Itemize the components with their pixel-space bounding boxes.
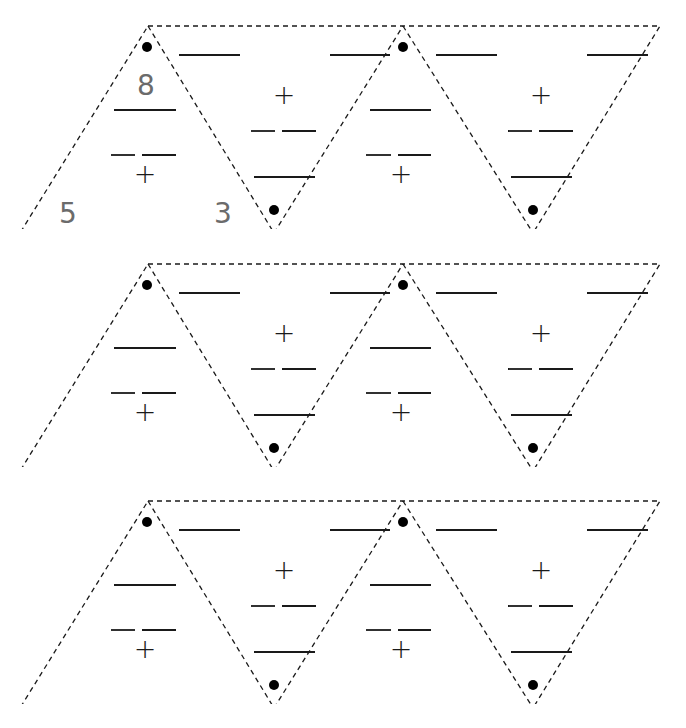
- triangle-row-3: + + + +: [0, 489, 686, 704]
- plus-operator-r2t2: +: [273, 319, 296, 346]
- worksheet-canvas: + + + + 8 5 3: [0, 0, 686, 728]
- plus-operator-r3t4: +: [530, 556, 553, 583]
- plus-operator-r1t1: +: [134, 160, 157, 187]
- plus-operator-r3t3: +: [390, 635, 413, 662]
- plus-operator-r1t4: +: [530, 81, 553, 108]
- triangle-row-2: + + + +: [0, 252, 686, 467]
- plus-operator-r3t2: +: [273, 556, 296, 583]
- plus-operator-r2t4: +: [530, 319, 553, 346]
- plus-operator-r2t1: +: [134, 398, 157, 425]
- handwritten-value-r1t1-bottom-left: 5: [59, 200, 77, 228]
- row-3-glyphs: + + + +: [0, 489, 686, 704]
- plus-operator-r1t2: +: [273, 81, 296, 108]
- handwritten-value-r1t1-top: 8: [137, 72, 155, 100]
- handwritten-value-r1t1-bottom-right: 3: [214, 200, 232, 228]
- plus-operator-r2t3: +: [390, 398, 413, 425]
- row-1-glyphs: + + + + 8 5 3: [0, 14, 686, 229]
- plus-operator-r1t3: +: [390, 160, 413, 187]
- cropped-header-artifact: [0, 0, 686, 10]
- row-2-glyphs: + + + +: [0, 252, 686, 467]
- triangle-row-1: + + + + 8 5 3: [0, 14, 686, 229]
- plus-operator-r3t1: +: [134, 635, 157, 662]
